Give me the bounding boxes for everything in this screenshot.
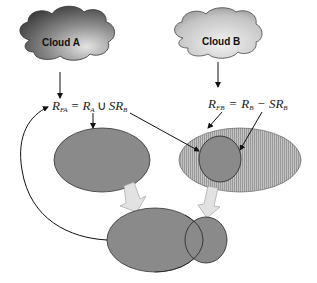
- formula-fa: RFA=RA∪SRB: [51, 98, 128, 114]
- block-arrow-right: [198, 186, 220, 218]
- block-arrow-left: [120, 182, 146, 212]
- cloud-a: Cloud A: [20, 6, 115, 60]
- result-srb-circle: [185, 217, 227, 263]
- cloud-b: Cloud B: [175, 8, 262, 59]
- formula-fb: RFB=RB−SRB: [207, 96, 288, 112]
- diagram-canvas: Cloud A Cloud B RFA=RA∪SRB RFB=RB−SRB: [0, 0, 317, 283]
- set-fa-ellipse: [54, 128, 150, 192]
- cloud-a-label: Cloud A: [42, 37, 80, 48]
- cloud-b-label: Cloud B: [202, 36, 240, 47]
- set-srb-circle: [199, 136, 241, 182]
- fb-rb-arrow: [208, 112, 222, 128]
